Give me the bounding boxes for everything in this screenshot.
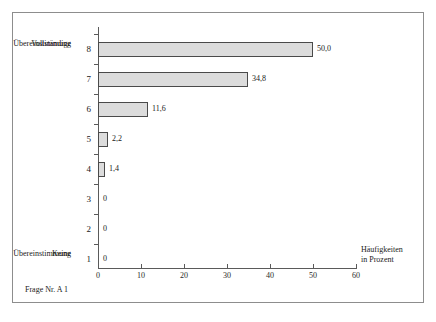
category-number: 8: [75, 44, 91, 54]
bar-category-4: [98, 162, 105, 177]
bar-value-label: 0: [103, 194, 107, 203]
x-axis-title: Häufigkeiten in Prozent: [361, 245, 403, 265]
category-number: 6: [75, 104, 91, 114]
bar-value-label: 2,2: [112, 134, 122, 143]
scale-anchor-high-line1: Vollständige: [13, 39, 71, 48]
x-axis-tick: [270, 264, 271, 269]
x-axis-tick: [141, 264, 142, 269]
x-axis-tick-label: 10: [137, 271, 145, 280]
bar-value-label: 34,8: [252, 74, 266, 83]
y-axis-tick: [94, 94, 99, 95]
x-axis-tick-label: 50: [309, 271, 317, 280]
category-number: 4: [75, 164, 91, 174]
bar-category-5: [98, 132, 108, 147]
figure-footnote: Frage Nr. A 1: [25, 285, 68, 294]
category-number: 7: [75, 74, 91, 84]
bar-category-7: [98, 72, 248, 87]
bar-value-label: 11,6: [152, 104, 166, 113]
category-number: 2: [75, 224, 91, 234]
y-axis-tick: [94, 184, 99, 185]
x-axis-tick-label: 0: [96, 271, 100, 280]
y-axis-tick: [94, 64, 99, 65]
x-axis-tick: [227, 264, 228, 269]
x-axis-tick: [184, 264, 185, 269]
x-axis-tick-label: 20: [180, 271, 188, 280]
x-axis-tick-label: 40: [266, 271, 274, 280]
x-axis-tick: [356, 264, 357, 269]
bar-value-label: 1,4: [109, 164, 119, 173]
x-axis-tick: [313, 264, 314, 269]
x-axis-tick: [98, 264, 99, 269]
bar-value-label: 50,0: [317, 44, 331, 53]
x-axis-tick-label: 30: [223, 271, 231, 280]
y-axis-tick: [94, 124, 99, 125]
scale-anchor-high: Vollständige Übereinstimmung: [13, 39, 71, 48]
bar-value-label: 0: [103, 224, 107, 233]
y-axis-tick: [94, 34, 99, 35]
y-axis-tick: [94, 214, 99, 215]
bar-value-label: 0: [103, 254, 107, 263]
chart-plot-area: 0 10 20 30 40 50 60 8 50,0 7 34,8 6 11,6…: [13, 13, 425, 304]
category-number: 1: [75, 254, 91, 264]
category-number: 3: [75, 194, 91, 204]
category-number: 5: [75, 134, 91, 144]
x-axis-tick-label: 60: [352, 271, 360, 280]
figure-frame: 0 10 20 30 40 50 60 8 50,0 7 34,8 6 11,6…: [12, 12, 424, 303]
x-axis-title-line2: in Prozent: [361, 255, 403, 265]
scale-anchor-low-line1: Keine: [13, 249, 71, 258]
y-axis-tick: [94, 244, 99, 245]
y-axis-tick: [94, 154, 99, 155]
bar-category-8: [98, 42, 313, 57]
bar-category-6: [98, 102, 148, 117]
scale-anchor-low: Keine Übereinstimmung: [13, 249, 71, 258]
x-axis-title-line1: Häufigkeiten: [361, 245, 403, 255]
